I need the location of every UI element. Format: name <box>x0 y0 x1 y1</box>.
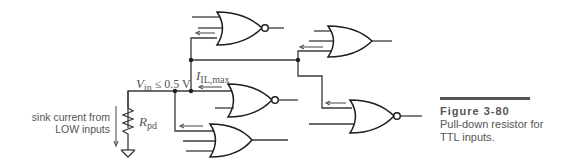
iil-max-label: IIL,max <box>195 68 230 85</box>
caption-line2: TTL inputs. <box>440 131 580 144</box>
right-nor-gate <box>309 100 422 133</box>
rpd-label: Rpd <box>138 114 157 131</box>
middle-nor-gate <box>215 84 298 117</box>
sink-current-line2: LOW inputs <box>4 123 110 135</box>
bottom-or-gate <box>183 124 288 157</box>
top-nor-gate <box>192 12 284 45</box>
junction-dot <box>296 58 300 62</box>
figure-caption: Figure 3-80 Pull-down resistor for TTL i… <box>440 97 580 144</box>
sink-current-label: sink current from LOW inputs <box>4 111 110 135</box>
vin-label: Vin≤ 0.5 V <box>136 76 191 93</box>
caption-rule <box>440 97 530 100</box>
caption-title: Figure 3-80 <box>440 105 580 118</box>
top-right-or-gate <box>309 26 392 57</box>
junction-dot <box>189 58 193 62</box>
sink-current-arrow <box>114 106 118 146</box>
pull-down-resistor <box>123 91 133 150</box>
caption-line1: Pull-down resistor for <box>440 118 580 131</box>
ground-icon <box>121 150 135 157</box>
sink-current-line1: sink current from <box>4 111 110 123</box>
